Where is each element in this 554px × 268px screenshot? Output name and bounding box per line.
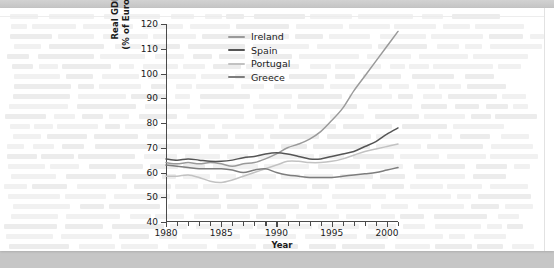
chart-figure: Real GDP per person (% of European avera…: [112, 18, 404, 244]
legend-item-spain: Spain: [228, 44, 290, 58]
y-axis-tick: [161, 98, 166, 99]
x-axis-tick-minor: [376, 222, 377, 226]
y-axis-tick-label: 100: [141, 69, 158, 79]
plot-area: IrelandSpainPortugalGreece 4050607080901…: [166, 24, 398, 222]
x-axis-tick-label: 1995: [320, 228, 343, 238]
legend-swatch-icon: [228, 49, 245, 51]
y-axis-tick-label: 50: [147, 192, 158, 202]
x-axis-tick-label: 2000: [375, 228, 398, 238]
y-axis-tick: [161, 74, 166, 75]
x-axis-title: Year: [166, 240, 398, 250]
y-axis-title-line2: (% of European average): [121, 0, 132, 64]
x-axis-tick-major: [221, 222, 222, 227]
legend-item-greece: Greece: [228, 71, 290, 85]
legend-item-portugal: Portugal: [228, 57, 290, 71]
x-axis-tick-minor: [310, 222, 311, 226]
y-axis-tick: [161, 197, 166, 198]
chart-legend: IrelandSpainPortugalGreece: [228, 30, 290, 84]
y-axis-tick: [161, 123, 166, 124]
x-axis-tick-minor: [199, 222, 200, 226]
page-border-right: [544, 8, 545, 251]
y-axis-tick-label: 60: [147, 168, 158, 178]
legend-swatch-icon: [228, 36, 245, 38]
x-axis-tick-label: 1980: [155, 228, 178, 238]
legend-swatch-icon: [228, 76, 245, 78]
y-axis-tick: [161, 148, 166, 149]
legend-item-label: Greece: [251, 71, 285, 85]
legend-item-label: Ireland: [251, 30, 284, 44]
x-axis-tick-major: [166, 222, 167, 227]
x-axis-tick-minor: [398, 222, 399, 226]
x-axis-tick-minor: [265, 222, 266, 226]
y-axis-tick: [161, 24, 166, 25]
x-axis-tick-minor: [365, 222, 366, 226]
y-axis-tick-label: 120: [141, 19, 158, 29]
x-axis-tick-minor: [232, 222, 233, 226]
page-border-top: [0, 16, 545, 17]
y-axis-title: Real GDP per person (% of European avera…: [110, 0, 131, 64]
y-axis-title-line1: Real GDP per person: [110, 0, 121, 64]
legend-item-label: Portugal: [251, 57, 290, 71]
y-axis-tick-label: 70: [147, 143, 158, 153]
x-axis-tick-minor: [288, 222, 289, 226]
y-axis-tick-label: 110: [141, 44, 158, 54]
x-axis-tick-minor: [210, 222, 211, 226]
y-axis-tick: [161, 49, 166, 50]
x-axis-tick-label: 1990: [265, 228, 288, 238]
x-axis-tick-minor: [354, 222, 355, 226]
x-axis-tick-minor: [188, 222, 189, 226]
series-line-greece: [166, 165, 398, 177]
x-axis-tick-minor: [321, 222, 322, 226]
y-axis-tick-label: 80: [147, 118, 158, 128]
legend-item-ireland: Ireland: [228, 30, 290, 44]
x-axis-tick-major: [332, 222, 333, 227]
y-axis-tick: [161, 173, 166, 174]
x-axis-tick-minor: [254, 222, 255, 226]
x-axis-tick-minor: [243, 222, 244, 226]
x-axis-tick-minor: [343, 222, 344, 226]
x-axis-tick-label: 1985: [210, 228, 233, 238]
y-axis-tick-label: 40: [147, 217, 158, 227]
series-line-spain: [166, 128, 398, 162]
screenshot-root: Real GDP per person (% of European avera…: [0, 0, 554, 268]
legend-item-label: Spain: [251, 44, 278, 58]
x-axis-tick-minor: [177, 222, 178, 226]
x-axis-tick-major: [276, 222, 277, 227]
legend-swatch-icon: [228, 63, 245, 65]
x-axis-tick-minor: [299, 222, 300, 226]
x-axis-tick-major: [387, 222, 388, 227]
y-axis-tick-label: 90: [147, 93, 158, 103]
